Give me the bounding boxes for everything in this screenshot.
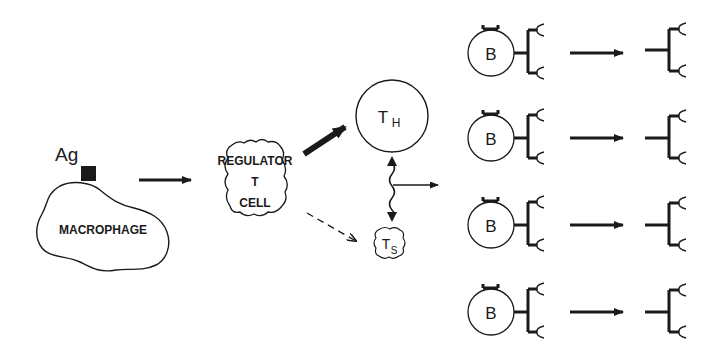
antibody-tips-icon <box>537 109 544 164</box>
regulator-label-line2: T <box>251 175 259 189</box>
b-cell-label: B <box>485 130 496 149</box>
b-cell-row-1: B <box>468 23 686 79</box>
antibody-tips-icon <box>537 283 544 338</box>
free-antibody-tips-icon <box>679 284 686 338</box>
helper-t-cell: T H <box>356 80 428 152</box>
antibody-tips-icon <box>537 24 544 79</box>
b-cell: B <box>468 24 544 79</box>
b-cell-label: B <box>485 304 496 323</box>
regulator-label-line3: CELL <box>239 196 270 210</box>
antibody-icon <box>514 115 537 158</box>
receptor-icon <box>483 110 498 114</box>
suppressor-t-cell: T S <box>374 228 405 259</box>
free-antibody-icon <box>645 29 679 71</box>
receptor-icon <box>483 25 498 29</box>
antibody-icon <box>514 30 537 73</box>
antibody-tips-icon <box>537 196 544 251</box>
b-cell: B <box>468 283 544 338</box>
wavy-link-icon <box>390 162 395 216</box>
arrow-regulator-to-helper <box>304 127 345 154</box>
antigen-square-icon <box>81 166 96 181</box>
receptor-icon <box>483 197 498 201</box>
antigen-label: Ag <box>55 144 78 165</box>
free-antibody-tips-icon <box>679 23 686 77</box>
helper-label-subscript: H <box>392 116 401 130</box>
helper-label: T <box>378 108 388 127</box>
free-antibody-tips-icon <box>679 110 686 164</box>
antigen: Ag <box>55 144 96 181</box>
suppressor-label: T <box>382 236 391 252</box>
down-arrowhead-icon <box>387 212 397 222</box>
free-antibody-icon <box>645 203 679 245</box>
helper-suppressor-interaction <box>387 156 438 222</box>
b-cell-row-4: B <box>468 283 686 338</box>
free-antibody-tips-icon <box>679 197 686 251</box>
b-cell-label: B <box>485 217 496 236</box>
suppressor-label-subscript: S <box>391 245 398 256</box>
arrow-regulator-to-suppressor <box>307 213 356 241</box>
regulator-label-line1: REGULATOR <box>218 154 293 168</box>
antibody-icon <box>514 289 537 332</box>
immune-regulation-diagram: Ag MACROPHAGE REGULATOR T CELL T H T S <box>0 0 722 359</box>
b-cell-row-3: B <box>468 196 686 251</box>
b-cell-row-2: B <box>468 109 686 164</box>
free-antibody-icon <box>645 116 679 158</box>
antibody-icon <box>514 202 537 245</box>
macrophage-label: MACROPHAGE <box>59 223 147 237</box>
b-cell: B <box>468 196 544 251</box>
regulator-t-cell: REGULATOR T CELL <box>218 140 293 216</box>
b-cell-label: B <box>485 45 496 64</box>
receptor-icon <box>483 284 498 288</box>
macrophage: MACROPHAGE <box>37 183 169 271</box>
b-cell: B <box>468 109 544 164</box>
free-antibody-icon <box>645 290 679 332</box>
up-arrowhead-icon <box>387 156 397 166</box>
